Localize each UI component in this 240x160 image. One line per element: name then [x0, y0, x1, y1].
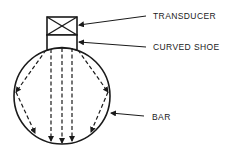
- bar-label: BAR: [152, 112, 171, 122]
- vertical-beams: [51, 48, 72, 143]
- leader-lines: [79, 16, 146, 116]
- transducer-icon: [47, 17, 77, 35]
- curved-shoe-label: CURVED SHOE: [153, 42, 220, 52]
- transducer-label: TRANSDUCER: [153, 11, 216, 21]
- ultrasonic-bar-diagram: [0, 0, 240, 160]
- curved-shoe-icon: [47, 35, 77, 50]
